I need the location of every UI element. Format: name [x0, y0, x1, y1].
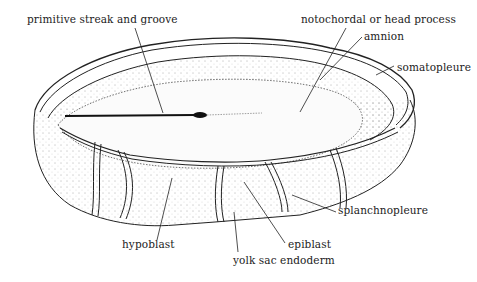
primitive-streak	[65, 115, 195, 116]
label-yolk-sac-endoderm: yolk sac endoderm	[233, 254, 335, 266]
label-splanchnopleure: splanchnopleure	[338, 204, 428, 216]
label-somatopleure: somatopleure	[397, 61, 471, 73]
label-amnion: amnion	[364, 30, 404, 42]
embryo-diagram: primitive streak and groove notochordal …	[0, 0, 477, 282]
label-notochordal-process: notochordal or head process	[301, 13, 456, 25]
label-epiblast: epiblast	[288, 238, 331, 250]
label-primitive-streak: primitive streak and groove	[27, 13, 178, 25]
embryo-illustration	[0, 0, 477, 282]
label-hypoblast: hypoblast	[122, 238, 175, 250]
